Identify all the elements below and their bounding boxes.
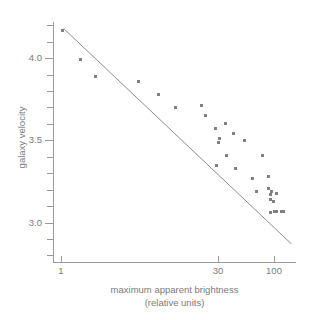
data-point: [282, 210, 285, 213]
data-point: [267, 175, 270, 178]
data-point: [79, 58, 82, 61]
data-point: [217, 141, 220, 144]
data-point: [269, 211, 272, 214]
data-point: [157, 93, 160, 96]
data-point: [225, 154, 228, 157]
data-point: [224, 122, 227, 125]
data-point: [200, 104, 203, 107]
scatter-plot-figure: 4.03.53.0 130100 galaxy velocity maximum…: [0, 0, 317, 320]
data-points-layer: [0, 0, 317, 320]
data-point: [275, 210, 278, 213]
data-point: [269, 193, 272, 196]
data-point: [204, 114, 207, 117]
data-point: [137, 80, 140, 83]
data-point: [174, 106, 177, 109]
data-point: [215, 164, 218, 167]
data-point: [251, 177, 254, 180]
data-point: [94, 75, 97, 78]
data-point: [61, 29, 64, 32]
data-point: [272, 200, 275, 203]
data-point: [270, 190, 273, 193]
data-point: [275, 192, 278, 195]
data-point: [214, 127, 217, 130]
data-point: [243, 139, 246, 142]
data-point: [232, 132, 235, 135]
data-point: [255, 190, 258, 193]
data-point: [234, 167, 237, 170]
data-point: [261, 154, 264, 157]
